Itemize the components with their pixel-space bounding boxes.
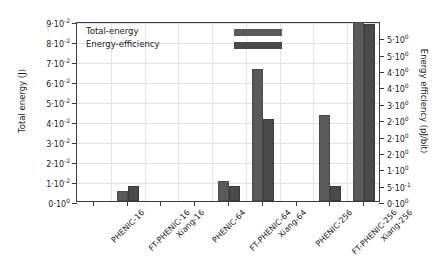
tick-mark <box>72 203 77 204</box>
y-axis-right-tick-label: 0·100 <box>387 198 431 209</box>
bar-energy-efficiency <box>330 186 341 201</box>
tick-mark <box>72 83 77 84</box>
bar-total-energy <box>319 115 330 201</box>
y-axis-right-tick-label: 4·100 <box>387 83 431 94</box>
legend-item-total-energy: Total-energy <box>86 26 282 39</box>
tick-mark <box>194 202 195 206</box>
bar-energy-efficiency <box>128 186 139 201</box>
tick-mark <box>228 202 229 206</box>
bar-energy-efficiency <box>263 119 274 201</box>
tick-mark <box>379 39 384 40</box>
y-axis-left-tick-label: 0·100 <box>26 198 70 209</box>
tick-mark <box>127 202 128 206</box>
y-axis-right-tick-label: 4·100 <box>387 67 431 78</box>
tick-mark <box>72 63 77 64</box>
legend-label: Energy-efficiency <box>86 39 159 49</box>
bar-energy-efficiency <box>364 24 375 201</box>
bar-energy-efficiency <box>229 186 240 201</box>
bar-total-energy <box>353 22 364 201</box>
tick-mark <box>379 56 384 57</box>
tick-mark <box>379 138 384 139</box>
x-axis-tick-label: PHENIC-16 <box>109 208 146 245</box>
tick-mark <box>72 43 77 44</box>
y-axis-left-tick-label: 3·10-2 <box>26 138 70 149</box>
y-axis-left-tick-label: 2·10-2 <box>26 158 70 169</box>
legend-swatch-icon <box>234 29 282 36</box>
chart-legend: Total-energy Energy-efficiency <box>86 26 282 52</box>
y-axis-left-tick-label: 5·10-2 <box>26 98 70 109</box>
y-axis-right-tick-label: 1·100 <box>387 165 431 176</box>
y-axis-right-tick-label: 2·100 <box>387 149 431 160</box>
y-axis-left-tick-label: 1·10-2 <box>26 178 70 189</box>
tick-mark <box>72 143 77 144</box>
tick-mark <box>379 88 384 89</box>
tick-mark <box>379 121 384 122</box>
tick-mark <box>329 202 330 206</box>
tick-mark <box>379 170 384 171</box>
x-axis-tick-label: PHENIC-64 <box>211 208 248 245</box>
tick-mark <box>72 103 77 104</box>
y-axis-right-tick-label: 2·100 <box>387 133 431 144</box>
tick-mark <box>262 202 263 206</box>
tick-mark <box>72 163 77 164</box>
y-axis-right-tick-label: 5·100 <box>387 51 431 62</box>
legend-item-energy-efficiency: Energy-efficiency <box>86 39 282 52</box>
y-axis-right-tick-label: 5·100 <box>387 34 431 45</box>
tick-mark <box>379 187 384 188</box>
tick-mark <box>160 202 161 206</box>
chart-container: Total energy (J) Energy efficiency (pJ/b… <box>0 0 446 265</box>
tick-mark <box>72 23 77 24</box>
tick-mark <box>93 202 94 206</box>
tick-mark <box>363 202 364 206</box>
legend-label: Total-energy <box>86 26 139 36</box>
tick-mark <box>72 123 77 124</box>
y-axis-left-tick-label: 8·10-2 <box>26 38 70 49</box>
y-axis-left-tick-label: 7·10-2 <box>26 58 70 69</box>
tick-mark <box>72 183 77 184</box>
y-axis-left-tick-label: 6·10-2 <box>26 78 70 89</box>
tick-mark <box>379 203 384 204</box>
tick-mark <box>379 105 384 106</box>
y-axis-right-tick-label: 2·100 <box>387 116 431 127</box>
bar-total-energy <box>218 181 229 201</box>
legend-swatch-icon <box>234 42 282 49</box>
tick-mark <box>379 154 384 155</box>
bar-total-energy <box>252 69 263 201</box>
y-axis-left-tick-label: 4·10-2 <box>26 118 70 129</box>
x-axis-tick-label: PHENIC-256 <box>314 208 354 248</box>
y-axis-right-tick-label: 3·100 <box>387 100 431 111</box>
tick-mark <box>296 202 297 206</box>
bar-total-energy <box>117 191 128 201</box>
y-axis-right-tick-label: 5·10-1 <box>387 182 431 193</box>
tick-mark <box>379 72 384 73</box>
y-axis-left-tick-label: 9·10-2 <box>26 18 70 29</box>
